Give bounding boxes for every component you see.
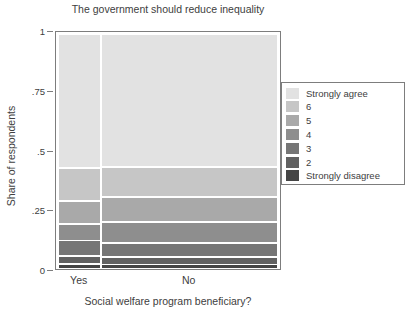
legend-swatch: [286, 115, 299, 126]
legend-label: Strongly agree: [306, 88, 368, 99]
legend-item[interactable]: 5: [286, 115, 311, 127]
mosaic-segment: [59, 202, 100, 224]
legend-item[interactable]: Strongly agree: [286, 87, 368, 99]
legend-label: 2: [306, 157, 311, 168]
mosaic-columns: [59, 35, 277, 266]
y-tick-mark: [47, 151, 53, 152]
mosaic-column: [102, 35, 277, 266]
mosaic-segment: [102, 258, 277, 264]
legend-item[interactable]: 4: [286, 128, 311, 140]
chart-root: The government should reduce inequality …: [0, 0, 411, 314]
legend-swatch: [286, 157, 299, 168]
legend-swatch: [286, 129, 299, 140]
legend-swatch: [286, 88, 299, 99]
legend-label: 3: [306, 143, 311, 154]
mosaic-segment: [102, 198, 277, 221]
mosaic-segment: [102, 244, 277, 256]
y-tick-label: .75: [32, 85, 45, 96]
y-tick-label: .25: [32, 205, 45, 216]
y-tick-mark: [47, 210, 53, 211]
mosaic-segment: [59, 265, 100, 268]
y-tick-mark: [47, 91, 53, 92]
y-tick-label: .5: [37, 145, 45, 156]
plot-area: [55, 31, 281, 270]
legend-label: Strongly disagree: [306, 170, 380, 181]
mosaic-segment: [59, 257, 100, 263]
legend-item[interactable]: 3: [286, 142, 311, 154]
legend-item[interactable]: Strongly disagree: [286, 170, 380, 182]
mosaic-segment: [59, 241, 100, 255]
mosaic-segment: [102, 265, 277, 268]
legend-label: 5: [306, 115, 311, 126]
mosaic-segment: [102, 35, 277, 166]
legend: Strongly agree65432Strongly disagree: [281, 82, 405, 185]
y-tick-mark: [47, 31, 53, 32]
mosaic-segment: [102, 168, 277, 197]
mosaic-column: [59, 35, 100, 266]
chart-title: The government should reduce inequality: [55, 3, 281, 15]
legend-swatch: [286, 143, 299, 154]
y-tick-label: 0: [40, 265, 45, 276]
y-axis-title: Share of respondents: [5, 91, 17, 221]
mosaic-segment: [102, 223, 277, 242]
legend-label: 4: [306, 129, 311, 140]
x-tick-label: No: [182, 274, 195, 286]
y-tick-label: 1: [40, 26, 45, 37]
y-tick-mark: [47, 270, 53, 271]
mosaic-segment: [59, 35, 100, 167]
legend-swatch: [286, 101, 299, 112]
legend-item[interactable]: 2: [286, 156, 311, 168]
mosaic-segment: [59, 225, 100, 240]
legend-swatch: [286, 170, 299, 181]
legend-label: 6: [306, 101, 311, 112]
x-tick-label: Yes: [70, 274, 87, 286]
y-axis: Share of respondents 0.25.5.751: [0, 0, 55, 314]
mosaic-segment: [59, 169, 100, 200]
legend-item[interactable]: 6: [286, 101, 311, 113]
x-axis-title: Social welfare program beneficiary?: [35, 295, 301, 307]
